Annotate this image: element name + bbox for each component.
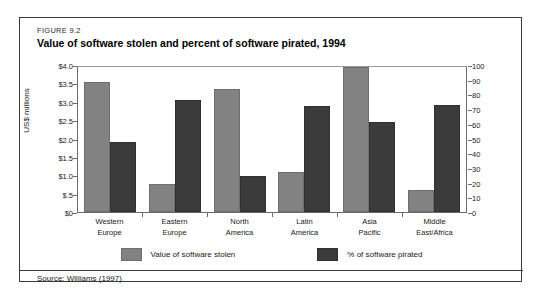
x-axis-category-label: WesternEurope [81, 217, 138, 238]
figure-panel: FIGURE 9.2 Value of software stolen and … [19, 17, 522, 282]
y-axis-right-tick [468, 198, 472, 199]
y-axis-left-tick-label: $1.0 [58, 172, 73, 181]
y-axis-right-tick-label: 50 [472, 135, 480, 144]
legend-label-value-stolen: Value of software stolen [151, 250, 236, 259]
y-axis-right-tick-label: 90 [472, 76, 480, 85]
y-axis-right-tick-label: 10 [472, 194, 480, 203]
bar-group [341, 67, 398, 212]
legend-item-percent-pirated: % of software pirated [317, 248, 422, 261]
bar-value-stolen [149, 184, 175, 212]
y-axis-left-tick-label: $0 [65, 209, 73, 218]
figure-title: Value of software stolen and percent of … [37, 37, 346, 49]
bar-series-container [78, 67, 466, 212]
y-axis-right-tick [468, 140, 472, 141]
y-axis-right-tick-label: 70 [472, 106, 480, 115]
bar-value-stolen [408, 190, 434, 212]
bar-percent-pirated [434, 105, 460, 212]
y-axis-right-ticks [467, 66, 472, 213]
y-axis-left-tick-label: $3.0 [58, 98, 73, 107]
x-axis-category-label: MiddleEast/Africa [406, 217, 463, 238]
x-axis-labels: WesternEuropeEasternEuropeNorthAmericaLa… [77, 217, 467, 238]
bar-percent-pirated [369, 122, 395, 212]
legend-swatch-value-stolen [121, 248, 142, 261]
bar-percent-pirated [110, 142, 136, 212]
legend-swatch-percent-pirated [317, 248, 338, 261]
bar-group [147, 67, 204, 212]
y-axis-right-tick [468, 184, 472, 185]
bar-value-stolen [278, 172, 304, 212]
y-axis-left-tick-label: $.5 [63, 190, 73, 199]
source-divider [20, 270, 523, 271]
y-axis-right-tick-label: 80 [472, 91, 480, 100]
x-axis-category-label: EasternEurope [146, 217, 203, 238]
x-axis-category-label: LatinAmerica [276, 217, 333, 238]
bar-value-stolen [84, 82, 110, 213]
chart-legend: Value of software stolen % of software p… [20, 248, 523, 261]
legend-label-percent-pirated: % of software pirated [347, 250, 422, 259]
source-text: Source: Williams (1997) [37, 274, 122, 283]
x-axis-category-label: NorthAmerica [211, 217, 268, 238]
bar-group [211, 67, 268, 212]
y-axis-right-tick-label: 100 [472, 62, 485, 71]
y-axis-right-tick [468, 169, 472, 170]
y-axis-right-tick-label: 0 [472, 209, 476, 218]
plot-area [77, 66, 467, 213]
y-axis-right-tick [468, 66, 472, 67]
bar-value-stolen [343, 67, 369, 212]
y-axis-title: US$ millions [22, 88, 31, 132]
bar-percent-pirated [304, 106, 330, 212]
y-axis-right-tick-label: 60 [472, 120, 480, 129]
bar-group [82, 67, 139, 212]
y-axis-right-tick [468, 95, 472, 96]
bar-group [276, 67, 333, 212]
y-axis-right-tick [468, 154, 472, 155]
y-axis-right-tick [468, 213, 472, 214]
y-axis-left-tick-label: $4.0 [58, 62, 73, 71]
bar-group [405, 67, 462, 212]
y-axis-left-tick-label: $2.5 [58, 117, 73, 126]
y-axis-right-tick-label: 30 [472, 164, 480, 173]
bar-percent-pirated [175, 100, 201, 212]
x-axis-category-label: AsiaPacific [341, 217, 398, 238]
y-axis-right-tick-label: 20 [472, 179, 480, 188]
y-axis-left-tick-label: $2.0 [58, 135, 73, 144]
bar-value-stolen [214, 89, 240, 212]
y-axis-right-tick [468, 81, 472, 82]
y-axis-left-tick-label: $1.5 [58, 153, 73, 162]
y-axis-right-tick [468, 125, 472, 126]
y-axis-right-tick-label: 40 [472, 150, 480, 159]
bar-percent-pirated [240, 176, 266, 212]
figure-number: FIGURE 9.2 [37, 26, 81, 35]
y-axis-left-tick-label: $3.5 [58, 80, 73, 89]
y-axis-right-tick [468, 110, 472, 111]
y-axis-left-labels: $0$.5$1.0$1.5$2.0$2.5$3.0$3.5$4.0 [40, 66, 73, 213]
y-axis-right-labels: 0102030405060708090100 [472, 66, 502, 213]
legend-item-value-stolen: Value of software stolen [121, 248, 236, 261]
